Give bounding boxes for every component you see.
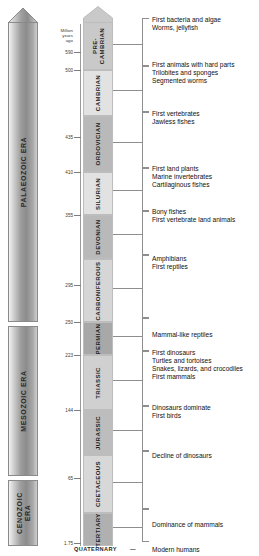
scale-tick — [74, 70, 81, 71]
period-block-tertiary[interactable]: TERTIARY — [83, 513, 113, 546]
scale-tick-label: 223 — [65, 353, 73, 358]
scale-tick-label: 500 — [65, 68, 73, 73]
event-bracket — [142, 66, 149, 112]
event-bracket — [142, 509, 149, 542]
scale-tick — [74, 410, 81, 411]
period-label: CRETACEOUS — [95, 461, 101, 507]
event-leader-line — [113, 90, 142, 91]
era-label: CENOZOIC ERA — [16, 492, 31, 534]
scale-tick-label: 295 — [65, 283, 73, 288]
quaternary-label: QUATERNARY — [74, 546, 117, 552]
event-bracket — [142, 318, 149, 351]
event-leader-line — [113, 234, 142, 235]
era-label: MESOZOIC ERA — [20, 370, 27, 431]
event-text-10: Dominance of mammals — [152, 521, 223, 529]
period-label: ORDOVICIAN — [95, 123, 101, 166]
scale-unit-label: Million years ago — [61, 28, 73, 43]
event-leader-line — [113, 527, 142, 528]
era-block-2: CENOZOIC ERA — [8, 480, 38, 546]
event-text-6: Mammal-like reptiles — [152, 331, 212, 339]
period-block-jurassic[interactable]: JURASSIC — [83, 410, 113, 455]
event-text-0: First bacteria and algae Worms, jellyfis… — [152, 16, 221, 32]
era-block-0: PALAEOZOIC ERA — [8, 22, 38, 322]
scale-tick — [74, 478, 81, 479]
scale-tick — [74, 285, 81, 286]
event-bracket — [142, 351, 149, 406]
period-block-triassic[interactable]: TRIASSIC — [83, 355, 113, 410]
period-block-cretaceous[interactable]: CRETACEOUS — [83, 455, 113, 513]
event-text-2: First vertebrates Jawless fishes — [152, 110, 200, 126]
event-bracket — [142, 406, 149, 451]
event-text-5: Amphibians First reptiles — [152, 255, 188, 271]
scale-tick-label: 1.75 — [64, 541, 73, 546]
event-text-7: First dinosaurs Turtles and tortoises Sn… — [152, 349, 243, 381]
period-label: CARBONIFEROUS — [95, 261, 101, 320]
event-text-1: First animals with hard parts Trilobites… — [152, 61, 234, 85]
period-block-carboniferous[interactable]: CARBONIFEROUS — [83, 259, 113, 322]
event-text-3: First land plants Marine invertebrates C… — [152, 165, 212, 189]
scale-tick-label: 435 — [65, 135, 73, 140]
period-block-permian[interactable]: PERMIAN — [83, 322, 113, 355]
event-text-9: Decline of dinosaurs — [152, 452, 212, 460]
event-leader-line — [113, 190, 142, 191]
scale-tick — [74, 137, 81, 138]
quaternary-event-text: Modern humans — [152, 546, 200, 554]
period-label: TERTIARY — [95, 513, 101, 546]
event-text-8: Dinosaurs dominate First birds — [152, 404, 211, 420]
event-text-4: Bony fishes First vertebrate land animal… — [152, 208, 235, 224]
scale-tick-label: 250 — [65, 320, 73, 325]
event-bracket — [142, 211, 149, 255]
event-bracket — [142, 18, 149, 66]
era-block-1: MESOZOIC ERA — [8, 326, 38, 476]
period-label: TRIASSIC — [95, 367, 101, 399]
geological-timescale-diagram: PALAEOZOIC ERAMESOZOIC ERACENOZOIC ERAMi… — [0, 0, 259, 556]
event-leader-line — [113, 482, 142, 483]
event-leader-line — [113, 288, 142, 289]
scale-tick — [74, 355, 81, 356]
quaternary-dash-icon: — — [130, 546, 136, 552]
scale-tick — [74, 322, 81, 323]
event-leader-line — [113, 380, 142, 381]
scale-tick — [74, 172, 81, 173]
period-label: JURASSIC — [95, 416, 101, 450]
scale-tick-label: 410 — [65, 170, 73, 175]
event-leader-line — [113, 336, 142, 337]
period-label: PERMIAN — [95, 323, 101, 354]
scale-tick-label: 144 — [65, 408, 73, 413]
event-bracket — [142, 168, 149, 211]
scale-tick — [74, 543, 81, 544]
period-block-devonian[interactable]: DEVONIAN — [83, 215, 113, 259]
period-block-ordovician[interactable]: ORDOVICIAN — [83, 116, 113, 172]
scale-tick-label: 590 — [65, 50, 73, 55]
period-block-pre--cambrian[interactable]: PRE- CAMBRIAN — [83, 22, 113, 70]
period-label: PRE- CAMBRIAN — [92, 28, 105, 64]
scale-tick-label: 355 — [65, 213, 73, 218]
period-block-silurian[interactable]: SILURIAN — [83, 172, 113, 215]
period-label: SILURIAN — [95, 178, 101, 210]
event-leader-line — [113, 44, 142, 45]
era-label: PALAEOZOIC ERA — [20, 137, 27, 208]
event-bracket — [142, 451, 149, 509]
event-leader-line — [113, 430, 142, 431]
event-leader-line — [113, 142, 142, 143]
scale-tick-label: 65 — [68, 476, 73, 481]
scale-tick — [74, 215, 81, 216]
event-bracket — [142, 112, 149, 168]
scale-tick — [74, 52, 81, 53]
event-bracket — [142, 255, 149, 318]
period-label: DEVONIAN — [95, 219, 101, 254]
period-label: CAMBRIAN — [95, 75, 101, 111]
period-block-cambrian[interactable]: CAMBRIAN — [83, 70, 113, 116]
